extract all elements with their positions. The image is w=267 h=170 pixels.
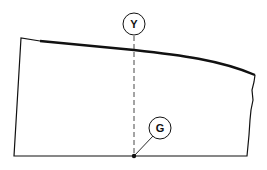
callout-y: Y bbox=[123, 13, 145, 35]
point-g-dot bbox=[132, 154, 136, 158]
callout-g-label: G bbox=[156, 122, 165, 134]
outline-shape bbox=[14, 38, 255, 156]
callout-g: G bbox=[132, 117, 171, 158]
outline-edges bbox=[14, 38, 255, 156]
callout-y-label: Y bbox=[130, 18, 138, 30]
diagram-canvas: Y G bbox=[0, 0, 267, 170]
top-edge-thick bbox=[40, 41, 255, 75]
